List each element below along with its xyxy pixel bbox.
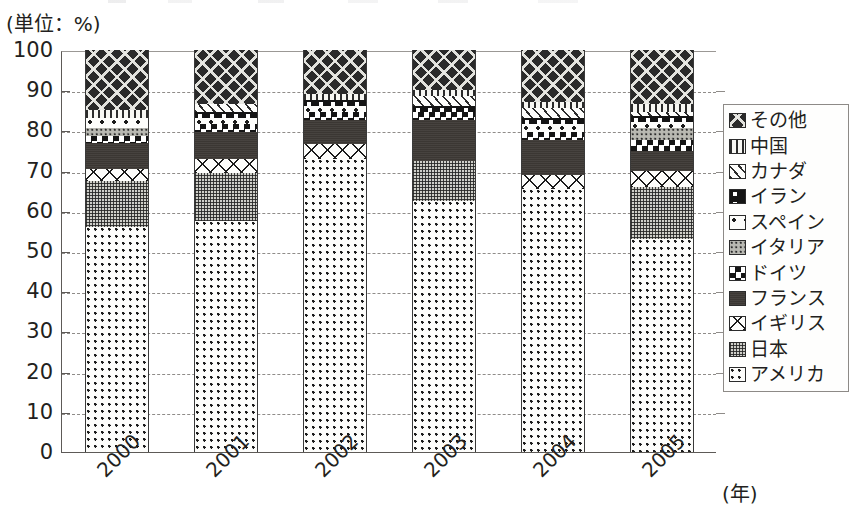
legend-item-label: スペイン bbox=[750, 213, 825, 232]
legend-item[interactable]: イギリス bbox=[729, 311, 844, 336]
legend-item[interactable]: イタリア bbox=[729, 235, 844, 260]
legend-swatch-icon bbox=[729, 189, 746, 204]
y-gridline bbox=[62, 173, 716, 174]
y-gridline bbox=[62, 293, 716, 294]
legend-item-label: カナダ bbox=[750, 162, 807, 181]
bar-segment bbox=[86, 118, 148, 128]
y-axis-tick-label: 30 bbox=[5, 321, 53, 342]
stacked-bar bbox=[85, 50, 149, 452]
legend-item-label: フランス bbox=[750, 289, 826, 308]
y-axis-tick-label: 20 bbox=[5, 362, 53, 383]
legend-swatch-icon bbox=[729, 266, 746, 281]
legend-item-label: アメリカ bbox=[750, 365, 825, 384]
bar-segment bbox=[413, 50, 475, 90]
legend-item[interactable]: フランス bbox=[729, 286, 844, 311]
legend-item-label: 日本 bbox=[750, 340, 788, 359]
y-axis-tick-mark bbox=[61, 292, 70, 293]
legend-item-label: 中国 bbox=[750, 137, 788, 156]
bar-segment bbox=[631, 140, 693, 150]
stacked-bar bbox=[194, 50, 258, 452]
legend-swatch-icon bbox=[729, 215, 746, 230]
y-axis-tick-label: 70 bbox=[5, 161, 53, 182]
legend-item-label: ドイツ bbox=[750, 264, 807, 283]
legend-item-label: イラン bbox=[750, 187, 807, 206]
legend-item[interactable]: スペイン bbox=[729, 210, 844, 235]
y-axis-tick-mark bbox=[61, 252, 70, 253]
y-axis-tick-label: 50 bbox=[5, 241, 53, 262]
top-cropped-line bbox=[108, 0, 628, 3]
y-axis-tick-mark bbox=[61, 212, 70, 213]
legend-item[interactable]: その他 bbox=[729, 108, 844, 133]
bar-segment bbox=[522, 132, 584, 140]
y-axis-tick-mark bbox=[61, 91, 70, 92]
legend-swatch-icon bbox=[729, 316, 746, 331]
legend-swatch-icon bbox=[729, 139, 746, 154]
bar-segment bbox=[304, 144, 366, 158]
legend-item[interactable]: ドイツ bbox=[729, 260, 844, 285]
y-gridline bbox=[62, 213, 716, 214]
bar-segment bbox=[86, 128, 148, 136]
y-gridline bbox=[62, 92, 716, 93]
bar-segment bbox=[413, 201, 475, 452]
bar-segment bbox=[631, 50, 693, 104]
y-gridline bbox=[62, 253, 716, 254]
y-gridline bbox=[62, 132, 716, 133]
y-gridline bbox=[62, 333, 716, 334]
bar-segment bbox=[522, 50, 584, 102]
stacked-bar bbox=[412, 50, 476, 452]
bar-segment bbox=[304, 120, 366, 144]
y-axis-tick-mark bbox=[61, 332, 70, 333]
y-axis-tick-label: 100 bbox=[5, 40, 53, 61]
y-axis-unit-label: (単位：%) bbox=[6, 8, 101, 37]
legend-item[interactable]: 日本 bbox=[729, 337, 844, 362]
bar-segment bbox=[522, 124, 584, 132]
y-axis-tick-label: 40 bbox=[5, 281, 53, 302]
bar-segment bbox=[86, 50, 148, 110]
bar-segment bbox=[522, 189, 584, 452]
y-gridline bbox=[62, 414, 716, 415]
y-axis-tick-mark bbox=[61, 373, 70, 374]
bar-segment bbox=[631, 171, 693, 187]
bar-segment bbox=[86, 169, 148, 181]
bar-segment bbox=[195, 132, 257, 158]
chart-legend: その他中国カナダイランスペインイタリアドイツフランスイギリス日本アメリカ bbox=[723, 104, 849, 392]
bar-segment bbox=[304, 159, 366, 452]
bar-segment bbox=[86, 143, 148, 169]
bar-segment bbox=[195, 159, 257, 173]
y-axis-tick-mark bbox=[61, 172, 70, 173]
y-axis-tick-label: 90 bbox=[5, 80, 53, 101]
bar-segment bbox=[413, 120, 475, 160]
bar-segment bbox=[413, 96, 475, 106]
bar-segment bbox=[631, 104, 693, 112]
y-axis-tick-label: 60 bbox=[5, 201, 53, 222]
legend-item[interactable]: 中国 bbox=[729, 133, 844, 158]
bar-segment bbox=[631, 187, 693, 239]
bar-segment bbox=[522, 108, 584, 118]
legend-swatch-icon bbox=[729, 113, 746, 128]
legend-swatch-icon bbox=[729, 367, 746, 382]
legend-item[interactable]: アメリカ bbox=[729, 362, 844, 387]
legend-swatch-icon bbox=[729, 342, 746, 357]
legend-item[interactable]: カナダ bbox=[729, 159, 844, 184]
bar-segment bbox=[195, 124, 257, 132]
chart-root: (単位：%) 1009080706050403020100 2000200120… bbox=[0, 0, 857, 517]
bar-segment bbox=[304, 50, 366, 94]
bar-segment bbox=[86, 181, 148, 227]
legend-item-label: その他 bbox=[750, 111, 807, 130]
legend-item[interactable]: イラン bbox=[729, 184, 844, 209]
bar-segment bbox=[522, 175, 584, 189]
legend-swatch-icon bbox=[729, 164, 746, 179]
y-axis-tick-label: 80 bbox=[5, 120, 53, 141]
legend-item-label: イギリス bbox=[750, 314, 826, 333]
stacked-bar bbox=[630, 50, 694, 452]
bar-segment bbox=[631, 128, 693, 140]
bar-segment bbox=[413, 112, 475, 120]
stacked-bar bbox=[521, 50, 585, 452]
bar-segment bbox=[195, 173, 257, 221]
y-axis-tick-label: 10 bbox=[5, 402, 53, 423]
bar-segment bbox=[413, 161, 475, 201]
bar-segment bbox=[86, 227, 148, 452]
right-axis-tick-mark bbox=[716, 91, 725, 92]
legend-item-label: イタリア bbox=[750, 238, 825, 257]
bar-segment bbox=[86, 110, 148, 118]
